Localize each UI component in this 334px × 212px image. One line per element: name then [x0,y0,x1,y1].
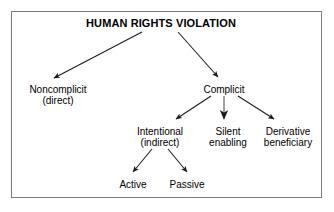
node-human-rights-violation: HUMAN RIGHTS VIOLATION [86,18,236,29]
diagram-canvas: HUMAN RIGHTS VIOLATION Noncomplicit (dir… [0,0,334,212]
node-label-line: (indirect) [137,137,183,148]
node-active: Active [119,179,146,190]
node-noncomplicit: Noncomplicit (direct) [29,84,86,106]
node-label-line: beneficiary [264,137,312,148]
node-label-line: (direct) [29,95,86,106]
node-complicit: Complicit [203,84,244,95]
node-label-line: HUMAN RIGHTS VIOLATION [86,18,236,29]
node-derivative-beneficiary: Derivative beneficiary [264,126,312,148]
node-label-line: Active [119,179,146,190]
node-label-line: Noncomplicit [29,84,86,95]
node-passive: Passive [169,179,204,190]
node-label-line: Complicit [203,84,244,95]
node-label-line: Passive [169,179,204,190]
node-label-line: enabling [209,137,247,148]
node-label-line: Silent [209,126,247,137]
node-label-line: Intentional [137,126,183,137]
node-intentional: Intentional (indirect) [137,126,183,148]
node-silent-enabling: Silent enabling [209,126,247,148]
node-label-line: Derivative [264,126,312,137]
